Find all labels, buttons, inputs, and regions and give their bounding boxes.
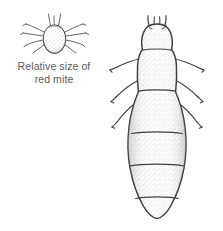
- red-mite-body: [43, 25, 65, 53]
- caption: Relative size of red mite: [0, 60, 108, 85]
- louse-illustration: [108, 14, 223, 231]
- relative-size-comparison-figure: Relative size of red mite: [0, 0, 223, 231]
- red-mite-illustration: [18, 12, 92, 64]
- caption-line-2: red mite: [0, 73, 108, 86]
- caption-line-1: Relative size of: [0, 60, 108, 73]
- louse-body: [128, 24, 186, 219]
